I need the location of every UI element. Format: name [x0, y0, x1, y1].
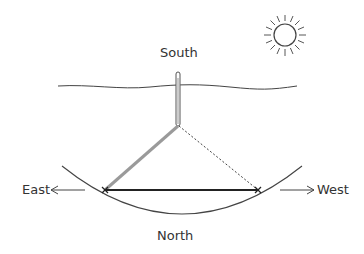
east-arrow-icon — [51, 186, 85, 194]
west-arrow-icon — [280, 186, 314, 194]
west-label: West — [317, 183, 349, 196]
stick — [176, 72, 180, 126]
sun-icon — [264, 15, 306, 56]
south-label: South — [160, 46, 198, 59]
dotted-line — [179, 126, 258, 190]
shadow-line — [105, 126, 178, 190]
sun-shadow-diagram — [0, 0, 364, 254]
north-label: North — [157, 229, 193, 242]
east-label: East — [22, 183, 50, 196]
